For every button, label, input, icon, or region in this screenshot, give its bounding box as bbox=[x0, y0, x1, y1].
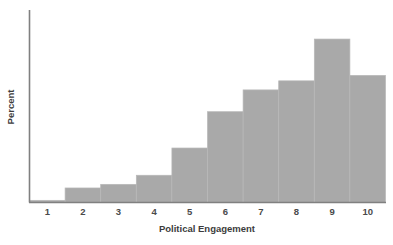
bar bbox=[208, 112, 244, 203]
x-tick-labels: 12345678910 bbox=[45, 206, 373, 217]
bar bbox=[350, 75, 386, 202]
x-tick-label: 5 bbox=[187, 206, 193, 217]
bar bbox=[136, 175, 172, 202]
x-tick-label: 9 bbox=[329, 206, 334, 217]
x-tick-label: 1 bbox=[45, 206, 51, 217]
x-tick-label: 3 bbox=[116, 206, 121, 217]
x-tick-label: 6 bbox=[223, 206, 228, 217]
bar bbox=[65, 188, 101, 203]
x-tick-label: 7 bbox=[258, 206, 263, 217]
bar bbox=[314, 39, 350, 202]
bar bbox=[101, 184, 137, 202]
bars-group bbox=[30, 39, 386, 202]
bar bbox=[243, 90, 279, 203]
x-tick-label: 8 bbox=[294, 206, 299, 217]
x-tick-label: 4 bbox=[151, 206, 157, 217]
y-axis-title: Percent bbox=[5, 89, 16, 125]
histogram-chart: 12345678910 Political Engagement Percent bbox=[0, 0, 393, 245]
chart-canvas: 12345678910 Political Engagement Percent bbox=[0, 0, 393, 245]
bar bbox=[172, 148, 208, 202]
x-axis-title: Political Engagement bbox=[159, 223, 256, 234]
x-tick-label: 2 bbox=[80, 206, 85, 217]
x-tick-label: 10 bbox=[362, 206, 373, 217]
bar bbox=[279, 81, 315, 203]
